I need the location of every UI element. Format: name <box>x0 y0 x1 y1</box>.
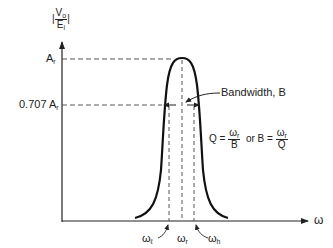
q-symbol: Q <box>278 140 286 151</box>
wr-text: ω <box>177 232 186 244</box>
omega-subscript: r <box>284 132 286 139</box>
wh-text: ω <box>208 232 217 244</box>
b-symbol: B <box>231 140 238 151</box>
vo-subscript: o <box>62 12 66 19</box>
b-fraction: ωr Q <box>276 128 288 151</box>
ar-subscript: r <box>53 58 55 65</box>
wr-tick-label: ωr <box>177 233 188 245</box>
wl-subscript: ℓ <box>151 238 153 245</box>
wl-tick-label: ωℓ <box>142 233 153 245</box>
half-power-subscript: r <box>56 104 58 111</box>
wr-subscript: r <box>186 238 188 245</box>
wh-leader <box>196 225 208 238</box>
wh-subscript: h <box>217 238 221 245</box>
gain-fraction: Vo Ei <box>55 8 68 32</box>
wl-leader <box>158 225 168 238</box>
x-axis-label: ω <box>314 214 323 226</box>
q-formula: Q = ωr B or B = ωr Q <box>209 128 288 151</box>
q-lhs: Q = <box>209 133 225 144</box>
wl-text: ω <box>142 232 151 244</box>
bandwidth-label: Bandwidth, B <box>221 87 286 98</box>
resonance-diagram <box>0 0 333 248</box>
half-power-tick-label: 0.707 Ar <box>19 99 59 111</box>
q-fraction: ωr B <box>228 128 240 151</box>
ei-subscript: i <box>63 24 65 31</box>
bandwidth-leader <box>186 93 220 102</box>
y-axis-label: | Vo Ei | <box>52 8 70 32</box>
omega-subscript: r <box>237 132 239 139</box>
ar-tick-label: Ar <box>46 53 56 65</box>
omega-symbol: ω <box>229 127 237 138</box>
wh-tick-label: ωh <box>208 233 221 245</box>
abs-bar: | <box>67 13 70 24</box>
half-power-text: 0.707 A <box>19 98 56 110</box>
or-text: or <box>246 133 255 144</box>
b-lhs: B = <box>258 133 273 144</box>
